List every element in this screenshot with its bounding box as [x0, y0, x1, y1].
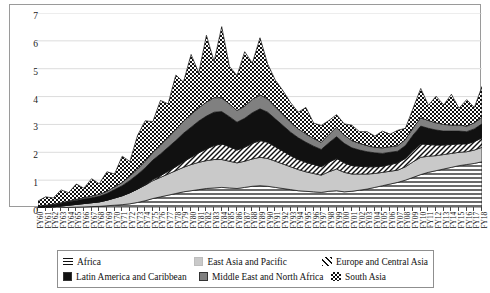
- chart-legend: AfricaEast Asia and PacificEurope and Ce…: [57, 250, 434, 288]
- x-axis-tick-mark: [297, 207, 298, 211]
- stacked-area-chart: 01234567 FY60FY61FY62FY63FY64FY65FY66FY6…: [0, 0, 490, 293]
- x-axis-tick-mark: [274, 207, 275, 211]
- x-axis-tick-label: FY18: [481, 212, 488, 228]
- x-axis-tick-mark: [412, 207, 413, 211]
- legend-item-middle-east-and-north-africa[interactable]: Middle East and North Africa: [199, 272, 331, 282]
- x-axis-tick-mark: [228, 207, 229, 211]
- x-axis-tick-mark: [328, 207, 329, 211]
- x-axis-tick-mark: [190, 207, 191, 211]
- x-axis-tick-mark: [267, 207, 268, 211]
- x-axis-tick-mark: [450, 207, 451, 211]
- x-axis-tick-mark: [336, 207, 337, 211]
- legend-swatch-checkerboard: [331, 272, 341, 281]
- x-axis-tick-mark: [351, 207, 352, 211]
- stacked-area-series: [38, 13, 482, 208]
- x-axis-tick-mark: [420, 207, 421, 211]
- x-axis-tick-mark: [205, 207, 206, 211]
- x-axis-tick-mark: [91, 207, 92, 211]
- legend-swatch-medium-gray: [199, 272, 208, 281]
- y-axis-tick-label: 4: [18, 96, 38, 106]
- x-axis-tick-mark: [320, 207, 321, 211]
- legend-item-latin-america-and-caribbean[interactable]: Latin America and Caribbean: [63, 272, 199, 282]
- x-axis-tick-mark: [175, 207, 176, 211]
- x-axis-tick-mark: [389, 207, 390, 211]
- x-axis: FY60FY61FY62FY63FY64FY65FY66FY67FY68FY69…: [37, 207, 481, 253]
- legend-swatch-diagonal-lines: [322, 257, 332, 266]
- x-axis-tick-mark: [404, 207, 405, 211]
- y-axis: 01234567: [14, 9, 38, 212]
- y-axis-tick-label: 5: [18, 68, 38, 78]
- legend-item-africa[interactable]: Africa: [63, 257, 194, 267]
- legend-swatch-solid-black: [63, 272, 72, 281]
- x-axis-tick-mark: [359, 207, 360, 211]
- x-axis-tick-mark: [37, 207, 38, 211]
- x-axis-tick-mark: [182, 207, 183, 211]
- x-axis-tick-mark: [129, 207, 130, 211]
- legend-label: Africa: [77, 257, 101, 267]
- x-axis-tick-mark: [251, 207, 252, 211]
- x-axis-tick-mark: [106, 207, 107, 211]
- legend-label: East Asia and Pacific: [207, 257, 286, 267]
- x-axis-tick-mark: [152, 207, 153, 211]
- x-axis-tick-mark: [159, 207, 160, 211]
- x-axis-tick-mark: [374, 207, 375, 211]
- legend-item-europe-and-central-asia[interactable]: Europe and Central Asia: [322, 257, 428, 267]
- y-axis-tick-label: 7: [18, 12, 38, 22]
- legend-label: Latin America and Caribbean: [76, 272, 187, 282]
- legend-swatch-horizontal-lines: [63, 258, 73, 266]
- x-axis-tick-mark: [466, 207, 467, 211]
- y-axis-tick-label: 3: [18, 124, 38, 134]
- legend-label: Middle East and North Africa: [212, 272, 323, 282]
- x-axis-tick-mark: [290, 207, 291, 211]
- x-axis-tick-mark: [98, 207, 99, 211]
- x-axis-tick-mark: [366, 207, 367, 211]
- y-axis-tick-label: 6: [18, 40, 38, 50]
- x-axis-tick-mark: [244, 207, 245, 211]
- x-axis-tick-mark: [282, 207, 283, 211]
- x-axis-tick-mark: [213, 207, 214, 211]
- x-axis-tick-mark: [137, 207, 138, 211]
- legend-item-south-asia[interactable]: South Asia: [331, 272, 386, 282]
- x-axis-tick-mark: [236, 207, 237, 211]
- plot-area: [38, 13, 482, 208]
- x-axis-tick-mark: [167, 207, 168, 211]
- y-axis-tick-label: 1: [18, 179, 38, 189]
- legend-swatch-light-gray: [194, 257, 203, 266]
- x-axis-tick-mark: [481, 207, 482, 211]
- plot-frame: 01234567: [9, 4, 481, 207]
- x-axis-tick-mark: [473, 207, 474, 211]
- x-axis-tick-mark: [435, 207, 436, 211]
- x-axis-tick-mark: [259, 207, 260, 211]
- x-axis-tick-mark: [60, 207, 61, 211]
- x-axis-tick-mark: [305, 207, 306, 211]
- x-axis-tick-mark: [443, 207, 444, 211]
- legend-label: Europe and Central Asia: [336, 257, 428, 267]
- legend-item-east-asia-and-pacific[interactable]: East Asia and Pacific: [194, 257, 322, 267]
- x-axis-tick-mark: [381, 207, 382, 211]
- x-axis-tick-mark: [121, 207, 122, 211]
- x-axis-tick-mark: [313, 207, 314, 211]
- y-axis-tick-label: 0: [18, 207, 38, 217]
- x-axis-tick-mark: [52, 207, 53, 211]
- x-axis-tick-mark: [114, 207, 115, 211]
- legend-label: South Asia: [345, 272, 386, 282]
- x-axis-tick-mark: [68, 207, 69, 211]
- x-axis-tick-mark: [83, 207, 84, 211]
- x-axis-tick-mark: [343, 207, 344, 211]
- x-axis-tick-mark: [427, 207, 428, 211]
- x-axis-tick-mark: [45, 207, 46, 211]
- x-axis-tick-mark: [198, 207, 199, 211]
- x-axis-tick-mark: [221, 207, 222, 211]
- x-axis-tick-mark: [75, 207, 76, 211]
- x-axis-tick-mark: [397, 207, 398, 211]
- x-axis-tick-mark: [144, 207, 145, 211]
- y-axis-tick-label: 2: [18, 152, 38, 162]
- legend-row: AfricaEast Asia and PacificEurope and Ce…: [63, 254, 428, 269]
- x-axis-tick-mark: [458, 207, 459, 211]
- legend-row: Latin America and CaribbeanMiddle East a…: [63, 269, 428, 284]
